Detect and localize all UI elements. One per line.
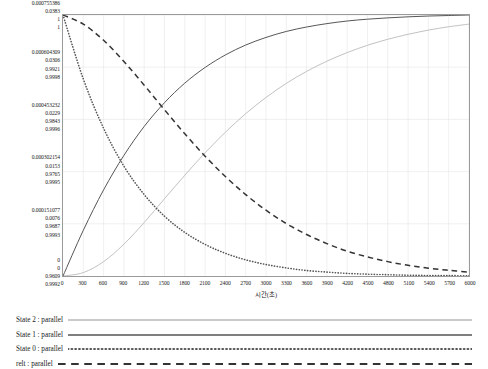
x-tick-label: 2100 <box>199 280 210 286</box>
x-tick-label: 300 <box>78 280 86 286</box>
plot-series-svg <box>63 15 469 276</box>
y-tick-label: 1 <box>0 17 60 25</box>
gridlines <box>63 15 469 276</box>
x-tick-label: 600 <box>99 280 107 286</box>
legend-line-swatch <box>68 317 472 323</box>
legend-line-swatch <box>58 361 472 367</box>
x-tick-label: 2700 <box>240 280 251 286</box>
legend-item[interactable]: State 0 : parallel <box>16 343 472 355</box>
legend-item-label: State 0 : parallel <box>16 345 68 353</box>
legend-item-label: State 1 : parallel <box>16 331 68 339</box>
legend-line-swatch <box>68 332 472 338</box>
y-tick-label: 1 <box>0 25 60 33</box>
legend-item-label: State 2 : parallel <box>16 316 68 324</box>
x-tick-label: 3900 <box>322 280 333 286</box>
x-tick-label: 2400 <box>220 280 231 286</box>
legend-item-label: relt : parallel <box>16 360 58 368</box>
x-tick-label: 3000 <box>261 280 272 286</box>
legend-line-swatch <box>68 346 472 352</box>
x-axis-title: 시간(초) <box>62 290 470 299</box>
chart-legend: State 2 : parallelState 1 : parallelStat… <box>0 306 488 369</box>
x-tick-label: 1200 <box>138 280 149 286</box>
y-tick-label-group: 0.0006043090.03060.99210.9998 <box>0 50 60 83</box>
x-tick-label: 900 <box>119 280 127 286</box>
y-tick-label: 0 <box>0 258 60 266</box>
x-tick-label: 6000 <box>465 280 476 286</box>
chart-figure: 0.0007553860.0383110.0006043090.03060.99… <box>0 0 488 305</box>
y-tick-label-group: 0.0003021540.01530.97650.9995 <box>0 155 60 188</box>
x-tick-label: 4200 <box>342 280 353 286</box>
y-tick-label-group: 000.96090.9992 <box>0 258 60 291</box>
x-tick-label: 5700 <box>444 280 455 286</box>
x-tick-label: 1500 <box>159 280 170 286</box>
x-tick-label: 4500 <box>363 280 374 286</box>
x-tick-label: 5100 <box>403 280 414 286</box>
y-tick-label-group: 0.0004532320.02290.98430.9996 <box>0 103 60 136</box>
y-tick-label: 0.9993 <box>0 233 60 241</box>
y-tick-label-group: 0.0007553860.038311 <box>0 1 60 34</box>
legend-item[interactable]: State 2 : parallel <box>16 314 472 326</box>
y-tick-label: 0.9996 <box>0 127 60 135</box>
x-tick-label: 3300 <box>281 280 292 286</box>
legend-item[interactable]: relt : parallel <box>16 358 472 369</box>
y-tick-label: 0.9998 <box>0 75 60 83</box>
legend-item[interactable]: State 1 : parallel <box>16 329 472 341</box>
y-tick-label: 0.0383 <box>0 9 60 17</box>
x-tick-label: 5400 <box>424 280 435 286</box>
y-tick-label: 0.9995 <box>0 180 60 188</box>
y-tick-label: 0.9992 <box>0 282 60 290</box>
x-tick-label: 0 <box>61 280 64 286</box>
plot-area <box>62 14 470 277</box>
x-tick-label: 1800 <box>179 280 190 286</box>
y-tick-label-group: 0.0001510770.00760.96870.9993 <box>0 208 60 241</box>
x-tick-label: 3600 <box>301 280 312 286</box>
x-tick-label: 4800 <box>383 280 394 286</box>
y-axis-tick-labels: 0.0007553860.0383110.0006043090.03060.99… <box>0 0 60 305</box>
